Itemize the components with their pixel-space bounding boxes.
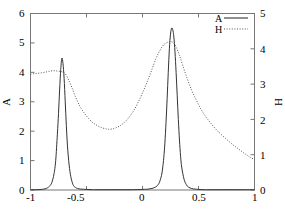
series-line-a [31, 28, 255, 190]
y2-axis-title: H [272, 95, 284, 109]
y2tick-label-2: 2 [260, 115, 266, 126]
ytick-label-1: 1 [19, 155, 25, 166]
y2tick-label-1: 1 [260, 150, 266, 161]
xtick-label-1: -0.5 [67, 192, 84, 203]
ytick-label-6: 6 [19, 8, 25, 19]
y2tick-label-5: 5 [260, 8, 266, 19]
y2tick-label-3: 3 [260, 79, 266, 90]
legend-label-a: A [215, 13, 222, 24]
xtick-label-2: 0 [139, 192, 145, 203]
ytick-label-4: 4 [19, 67, 25, 78]
xtick-label-0: -1 [26, 192, 35, 203]
ytick-label-3: 3 [19, 96, 25, 107]
series-line-h [31, 42, 255, 160]
xtick-label-4: 1 [252, 192, 258, 203]
axis-ticks [31, 14, 255, 191]
y2tick-label-0: 0 [260, 185, 266, 196]
legend-label-h: H [215, 24, 222, 35]
y2tick-label-4: 4 [260, 44, 266, 55]
xtick-label-3: 0.5 [192, 192, 206, 203]
plot-frame [31, 14, 255, 191]
chart-plot-area [0, 0, 285, 211]
ytick-label-2: 2 [19, 126, 25, 137]
ytick-label-0: 0 [19, 185, 25, 196]
chart-figure: -1 -0.5 0 0.5 1 0 1 2 3 4 5 6 0 1 2 3 4 … [0, 0, 285, 211]
ytick-label-5: 5 [19, 37, 25, 48]
y-axis-title: A [0, 95, 12, 109]
